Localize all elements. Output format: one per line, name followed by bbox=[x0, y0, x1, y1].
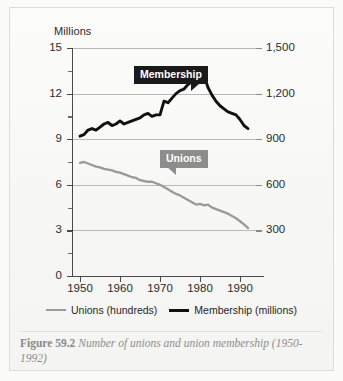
legend-label-unions: Unions (hundreds) bbox=[71, 304, 157, 316]
caption-divider bbox=[20, 331, 323, 332]
unions-line bbox=[80, 162, 248, 228]
unions-line-swatch-icon bbox=[46, 309, 66, 311]
plot-area: 03691215 3006009001,2001,500 19501960197… bbox=[10, 8, 333, 326]
legend-entry-unions: Unions (hundreds) bbox=[46, 304, 157, 316]
legend-label-membership: Membership (millions) bbox=[194, 304, 297, 316]
unions-callout-tail bbox=[167, 167, 176, 175]
membership-callout: Membership bbox=[134, 66, 208, 84]
chart-panel: Millions 03691215 3006009001,2001,500 19… bbox=[10, 8, 333, 326]
figure-caption: Figure 59.2 Number of unions and union m… bbox=[20, 336, 320, 367]
figure-number: Figure 59.2 bbox=[20, 337, 75, 349]
chart-legend: Unions (hundreds) Membership (millions) bbox=[10, 304, 333, 316]
unions-callout: Unions bbox=[160, 150, 208, 168]
membership-callout-tail bbox=[191, 83, 200, 91]
membership-callout-label: Membership bbox=[140, 68, 202, 80]
figure-container: Millions 03691215 3006009001,2001,500 19… bbox=[0, 0, 343, 381]
legend-entry-membership: Membership (millions) bbox=[169, 304, 297, 316]
membership-line-swatch-icon bbox=[169, 309, 189, 312]
unions-callout-label: Unions bbox=[166, 152, 202, 164]
